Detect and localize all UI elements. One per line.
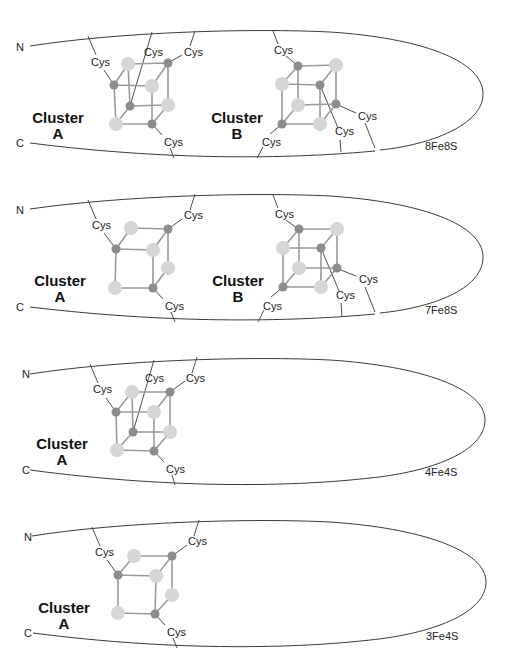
n-terminus-label: N <box>16 41 24 53</box>
cys-label: Cys <box>184 46 203 58</box>
cys-label: Cys <box>359 273 378 285</box>
protein-chain-outline <box>32 521 486 647</box>
protein-chain-outline <box>30 195 483 320</box>
cluster-letter: B <box>233 288 244 305</box>
cluster-name: Cluster <box>32 109 84 126</box>
n-terminus-label: N <box>24 531 32 543</box>
cys-label: Cys <box>274 44 293 56</box>
n-terminus-label: N <box>22 368 30 380</box>
cys-label: Cys <box>165 300 184 312</box>
cluster-letter: A <box>59 615 70 632</box>
cys-label: Cys <box>167 626 186 638</box>
cys-label: Cys <box>91 56 110 68</box>
c-terminus-label: C <box>16 301 24 313</box>
cys-label: Cys <box>166 463 185 475</box>
cluster-a: Cluster A Cys Cys Cys <box>34 194 203 322</box>
cys-label: Cys <box>335 125 354 137</box>
cys-label: Cys <box>275 208 294 220</box>
c-terminus-label: C <box>24 627 32 639</box>
cys-label: Cys <box>336 289 355 301</box>
protein-chain-outline <box>30 359 485 485</box>
panel-7fe8s: N C 7Fe8S Cluster A Cys Cys Cys Cluster <box>16 194 483 322</box>
cluster-b: Cluster B Cys Cys Cys Cys <box>212 195 378 322</box>
n-terminus-label: N <box>16 204 24 216</box>
panel-3fe4s: N C 3Fe4S Cluster A Cys Cys Cys <box>24 520 486 648</box>
panel-4fe4s: N C 4Fe4S Cluster A Cys Cys Cys Cys <box>22 357 485 485</box>
cluster-letter: A <box>55 288 66 305</box>
cluster-name: Cluster <box>212 272 264 289</box>
cluster-b: Cluster B Cys Cys Cys Cys <box>211 31 377 158</box>
cluster-letter: B <box>232 125 243 142</box>
panel-label: 4Fe4S <box>425 466 457 478</box>
cys-label: Cys <box>186 372 205 384</box>
cys-label: Cys <box>145 372 164 384</box>
cluster-name: Cluster <box>34 272 86 289</box>
cys-label: Cys <box>144 46 163 58</box>
cys-label: Cys <box>188 535 207 547</box>
cys-label: Cys <box>93 383 112 395</box>
cys-label: Cys <box>358 110 377 122</box>
cluster-name: Cluster <box>211 109 263 126</box>
cluster-a: Cluster A Cys Cys Cys Cys <box>32 31 203 158</box>
cys-label: Cys <box>92 219 111 231</box>
c-terminus-label: C <box>22 464 30 476</box>
cys-label: Cys <box>164 136 183 148</box>
cys-label: Cys <box>95 546 114 558</box>
cluster-name: Cluster <box>36 435 88 452</box>
ferredoxin-cluster-diagram: N C 8Fe8S Cluster A Cys Cys Cys Cys <box>0 0 511 671</box>
cys-label: Cys <box>184 209 203 221</box>
panel-label: 8Fe8S <box>425 140 457 152</box>
protein-chain-outline <box>30 31 483 157</box>
cys-label: Cys <box>262 136 281 148</box>
panel-label: 3Fe4S <box>426 630 458 642</box>
cys-label: Cys <box>263 300 282 312</box>
cluster-a: Cluster A Cys Cys Cys <box>38 520 207 648</box>
cluster-letter: A <box>57 451 68 468</box>
cluster-letter: A <box>53 125 64 142</box>
panel-8fe8s: N C 8Fe8S Cluster A Cys Cys Cys Cys <box>16 31 483 158</box>
cluster-name: Cluster <box>38 599 90 616</box>
c-terminus-label: C <box>16 137 24 149</box>
cluster-a: Cluster A Cys Cys Cys Cys <box>36 357 205 485</box>
panel-label: 7Fe8S <box>425 304 457 316</box>
